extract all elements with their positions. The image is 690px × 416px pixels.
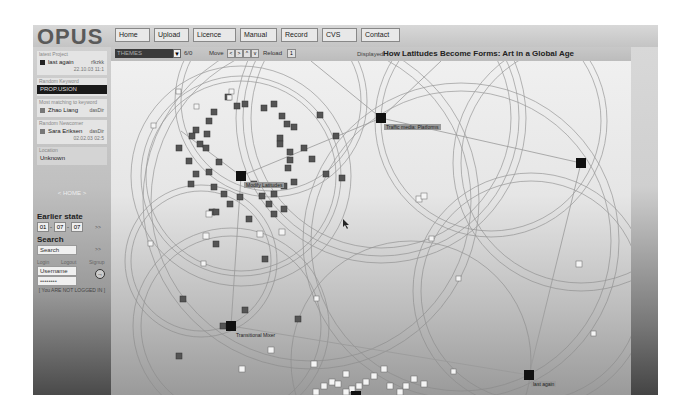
random-newcomer-owner: dasDir [90,127,107,135]
latest-project-date: 22.10.03 11:1 [37,66,107,73]
user-icon [40,108,45,113]
network-graph[interactable]: Modify Latitudes Traffic media: Platform… [111,61,631,395]
random-keyword-value[interactable]: PROP.USION [37,85,107,94]
login-status: [ You ARE NOT LOGGED IN ] [37,287,107,294]
theme-select[interactable]: THEMES [115,49,173,58]
latest-project-panel: latest Project last again rfkzkk 22.10.0… [37,51,107,75]
displayed-label: Displayed: [357,49,385,59]
random-newcomer-label: Random Newcomer [37,120,107,127]
nav-contact[interactable]: Contact [361,28,400,42]
move-down-button[interactable]: v [251,49,259,58]
move-label: Move [209,49,224,58]
reload-button[interactable]: 1 [287,49,296,58]
random-newcomer-item[interactable]: Sara Eriksen dasDir [37,127,107,135]
latest-project-item[interactable]: last again rfkzkk [37,58,107,66]
hub-label-traffic-media[interactable]: Traffic media: Platforms [384,124,441,130]
home-link[interactable]: < HOME > [37,188,107,198]
opus-logo: OPUS [37,26,103,48]
connection-arcs [125,61,631,395]
hub-label-last-again[interactable]: last again [531,381,556,387]
theme-count: 6/0 [184,49,192,58]
chevron-down-icon[interactable]: ▼ [173,49,181,58]
date-separator: - [67,222,69,232]
location-value: Unknown [37,154,107,162]
move-up-button[interactable]: ^ [243,49,251,58]
earlier-state-title: Earlier state [37,212,83,221]
hub-label-modify-latitudes[interactable]: Modify Latitudes [244,182,284,188]
search-go-button[interactable]: >> [95,246,101,252]
mouse-cursor-icon [343,219,349,229]
main-nav: Home Upload Licence Manual Record CVS Co… [115,28,404,42]
dark-nodes [176,94,345,359]
graph-canvas[interactable] [111,61,631,395]
move-right-button[interactable]: > [235,49,243,58]
nav-record[interactable]: Record [281,28,318,42]
project-icon [40,60,45,65]
location-label: Location [37,147,107,154]
hub-label-transitional-mixer[interactable]: Transitional Mixer [234,332,277,338]
search-input[interactable]: Search [37,245,77,255]
sidebar: latest Project last again rfkzkk 22.10.0… [33,47,111,395]
most-matching-owner: dasDir [90,106,107,114]
most-matching-name[interactable]: Zhao Liang [48,106,78,114]
latest-project-label: latest Project [37,51,107,58]
displayed-title: How Latitudes Become Forms: Art in a Glo… [383,48,574,59]
most-matching-label: Most matching to keyword [37,99,107,106]
search-title: Search [37,235,64,244]
move-left-button[interactable]: < [227,49,235,58]
username-field[interactable]: Username [37,266,77,276]
earlier-month-field[interactable]: 07 [54,222,66,232]
signup-link[interactable]: Signup [89,259,105,265]
earlier-go-button[interactable]: >> [95,224,101,230]
date-separator: - [50,222,52,232]
random-keyword-label: Random Keyword [37,78,107,85]
user-icon [40,129,45,134]
login-link[interactable]: Login [37,259,49,265]
reload-label: Reload [263,49,282,58]
top-bar: OPUS Home Upload Licence Manual Record C… [33,25,658,47]
latest-project-name[interactable]: last again [48,58,74,66]
random-newcomer-panel: Random Newcomer Sara Eriksen dasDir 02.0… [37,120,107,144]
login-arrow-icon[interactable]: → [95,269,105,279]
nav-cvs[interactable]: CVS [322,28,357,42]
location-panel: Location Unknown [37,147,107,165]
random-newcomer-date: 02.02.03 02:5 [37,135,107,142]
password-field[interactable]: •••••••• [37,276,77,286]
random-newcomer-name[interactable]: Sara Eriksen [48,127,82,135]
earlier-year-field[interactable]: 07 [71,222,83,232]
opus-screen: OPUS Home Upload Licence Manual Record C… [33,25,658,395]
right-panel-strip [631,47,658,395]
latest-project-owner: rfkzkk [91,58,107,66]
random-keyword-panel: Random Keyword PROP.USION [37,78,107,96]
nav-manual[interactable]: Manual [240,28,277,42]
nav-licence[interactable]: Licence [193,28,236,42]
earlier-day-field[interactable]: 01 [37,222,49,232]
most-matching-panel: Most matching to keyword Zhao Liang dasD… [37,99,107,117]
most-matching-item[interactable]: Zhao Liang dasDir [37,106,107,114]
logout-link[interactable]: Logout [61,259,76,265]
hub-spokes [181,61,581,375]
graph-toolbar: THEMES ▼ 6/0 Move < > ^ v Reload 1 Displ… [111,47,658,61]
nav-home[interactable]: Home [115,28,150,42]
nav-upload[interactable]: Upload [154,28,189,42]
